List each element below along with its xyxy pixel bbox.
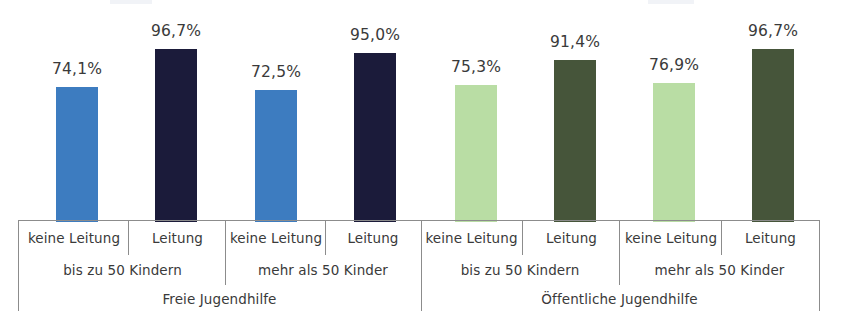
bar-fill <box>255 90 297 222</box>
plot-area: 74,1% 96,7% 72,5% 95,0% 75,3% 91,4% 76,9… <box>0 0 841 222</box>
bar-group-freie-mehr50-keine-leitung: 72,5% <box>255 90 297 222</box>
axis-row-leitung: keine Leitung Leitung keine Leitung Leit… <box>19 221 819 255</box>
axis-cell-leitung: keine Leitung <box>620 221 722 255</box>
bar-value-label: 72,5% <box>251 63 301 81</box>
axis-cell-leitung: Leitung <box>722 221 819 255</box>
axis-cell-group-size: mehr als 50 Kinder <box>226 255 420 285</box>
category-axis-table: keine Leitung Leitung keine Leitung Leit… <box>18 220 820 311</box>
bar-fill <box>155 49 197 222</box>
axis-row-group-size: bis zu 50 Kindern mehr als 50 Kinder bis… <box>19 255 819 285</box>
bar-fill <box>56 87 98 222</box>
bar-group-oeffentliche-bis50-leitung: 91,4% <box>554 60 596 222</box>
bar-group-freie-bis50-keine-leitung: 74,1% <box>56 87 98 222</box>
bar-value-label: 91,4% <box>550 33 600 51</box>
bar-fill <box>455 85 497 222</box>
bar-fill <box>752 49 794 222</box>
axis-cell-group-size: bis zu 50 Kindern <box>19 255 226 285</box>
axis-cell-group-provider: Öffentliche Jugendhilfe <box>420 285 819 312</box>
axis-cell-group-size: bis zu 50 Kindern <box>420 255 620 285</box>
bar-value-label: 95,0% <box>350 26 400 44</box>
bar-fill <box>653 83 695 222</box>
bar-value-label: 96,7% <box>151 22 201 40</box>
axis-cell-leitung: Leitung <box>129 221 226 255</box>
bar-group-freie-mehr50-leitung: 95,0% <box>354 53 396 222</box>
axis-major-divider <box>421 220 422 311</box>
bar-value-label: 74,1% <box>52 60 102 78</box>
bar-value-label: 75,3% <box>451 58 501 76</box>
axis-cell-leitung: Leitung <box>326 221 420 255</box>
bar-value-label: 76,9% <box>649 56 699 74</box>
bar-group-oeffentliche-mehr50-leitung: 96,7% <box>752 49 794 222</box>
axis-cell-leitung: Leitung <box>523 221 620 255</box>
axis-cell-leitung: keine Leitung <box>226 221 326 255</box>
bar-group-freie-bis50-leitung: 96,7% <box>155 49 197 222</box>
bar-fill <box>354 53 396 222</box>
bar-fill <box>554 60 596 222</box>
axis-cell-leitung: keine Leitung <box>19 221 129 255</box>
bar-group-oeffentliche-bis50-keine-leitung: 75,3% <box>455 85 497 222</box>
axis-cell-leitung: keine Leitung <box>420 221 523 255</box>
bar-value-label: 96,7% <box>748 22 798 40</box>
axis-cell-group-provider: Freie Jugendhilfe <box>19 285 420 312</box>
axis-row-group-provider: Freie Jugendhilfe Öffentliche Jugendhilf… <box>19 285 819 312</box>
axis-cell-group-size: mehr als 50 Kinder <box>620 255 819 285</box>
bar-group-oeffentliche-mehr50-keine-leitung: 76,9% <box>653 83 695 222</box>
bar-chart: 74,1% 96,7% 72,5% 95,0% 75,3% 91,4% 76,9… <box>0 0 841 333</box>
